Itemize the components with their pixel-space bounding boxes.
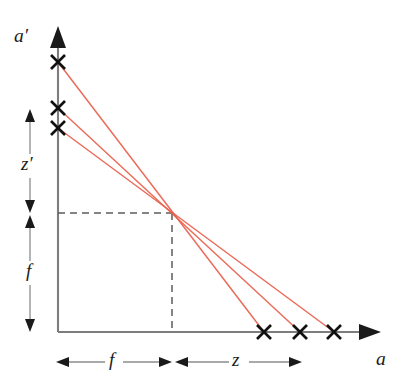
conjugate-diagram: z′ f f z a′ a	[0, 0, 408, 391]
vertical-axis-label: a′	[14, 25, 29, 46]
horizontal-axis-label: a	[376, 348, 386, 369]
figure-container: z′ f f z a′ a	[0, 0, 408, 391]
z-prime-label: z′	[20, 153, 33, 174]
z-horizontal-label: z	[231, 349, 240, 370]
